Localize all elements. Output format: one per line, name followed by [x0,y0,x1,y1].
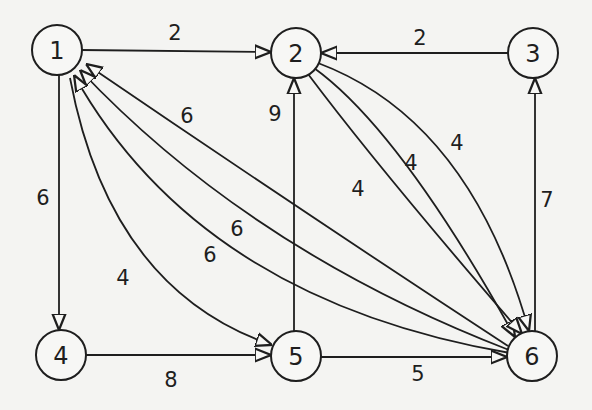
weight-5-6: 5 [411,362,424,386]
node-2: 2 [271,28,321,78]
weight-2-6-a: 4 [351,177,364,201]
graph-diagram: 2 2 6 8 5 9 7 4 4 4 6 6 6 4 1 2 3 4 5 6 [0,0,592,410]
weight-1-5: 4 [116,266,129,290]
node-5-label: 5 [288,343,303,371]
edge-2-6-a [314,68,515,337]
edge-6-1-c [74,75,510,353]
node-6: 6 [507,331,557,381]
weight-6-1-a: 6 [180,104,193,128]
node-1: 1 [32,25,82,75]
weight-1-2: 2 [168,21,181,45]
weight-1-4: 6 [36,186,49,210]
weight-2-6-b: 4 [404,151,417,175]
edge-2-6-b [308,74,522,334]
weight-6-1-c: 6 [203,243,216,267]
edge-1-2 [81,50,271,52]
weight-5-2: 9 [268,102,281,126]
weight-4-5: 8 [164,368,177,392]
node-5: 5 [271,331,321,381]
node-6-label: 6 [524,343,539,371]
weight-6-3: 7 [540,188,553,212]
weight-2-6-c: 4 [450,131,463,155]
node-3: 3 [508,28,558,78]
node-3-label: 3 [525,40,540,68]
weight-3-2: 2 [413,26,426,50]
edge-6-1-a [86,64,508,346]
node-4: 4 [36,330,86,380]
node-2-label: 2 [288,40,303,68]
node-1-label: 1 [49,37,64,65]
weight-6-1-b: 6 [230,217,243,241]
node-4-label: 4 [53,342,68,370]
